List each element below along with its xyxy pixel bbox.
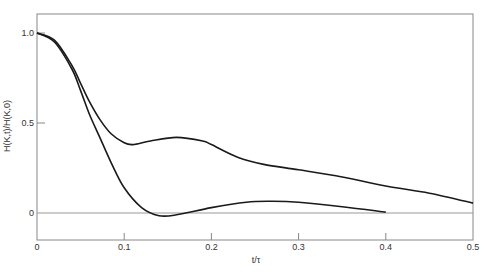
y-tick-label: 1.0 xyxy=(21,28,34,38)
x-ticks: 00.10.20.30.40.5 xyxy=(34,233,479,252)
y-ticks: 00.51.0 xyxy=(21,28,45,218)
plot-frame xyxy=(37,14,473,240)
x-axis-label: t/τ xyxy=(252,255,261,265)
x-tick-label: 0 xyxy=(34,242,39,252)
y-tick-label: 0.5 xyxy=(21,118,34,128)
x-tick-label: 0.3 xyxy=(292,242,305,252)
x-tick-label: 0.1 xyxy=(118,242,131,252)
lower-curve xyxy=(37,33,386,216)
series-group xyxy=(37,33,473,216)
x-tick-label: 0.5 xyxy=(467,242,480,252)
x-tick-label: 0.2 xyxy=(205,242,218,252)
y-tick-label: 0 xyxy=(29,208,34,218)
y-axis-label: H(K,t)/H(K,0) xyxy=(2,100,12,152)
upper-curve xyxy=(37,33,473,203)
x-tick-label: 0.4 xyxy=(380,242,393,252)
chart: 00.10.20.30.40.5 00.51.0 t/τ H(K,t)/H(K,… xyxy=(0,0,489,273)
